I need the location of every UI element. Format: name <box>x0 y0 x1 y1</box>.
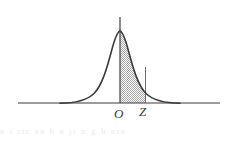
origin-label: O <box>114 107 123 120</box>
scan-bleed-artifact: a i rtr aa b a jt n g h ata <box>0 126 234 140</box>
normal-distribution-figure: O Z a i rtr aa b a jt n g h ata <box>0 0 234 144</box>
normal-curve-diagram <box>0 0 234 144</box>
z-label: Z <box>139 105 146 118</box>
